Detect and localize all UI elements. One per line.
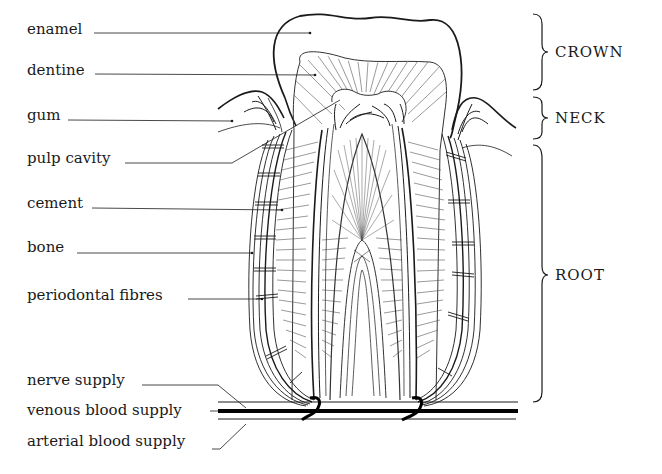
region-neck: NECK (555, 111, 606, 126)
neck-brace (533, 97, 548, 139)
crown-brace (533, 14, 548, 90)
label-cement: cement (27, 196, 83, 211)
tooth-diagram: enamel dentine gum pulp cavity cement bo… (0, 0, 662, 474)
label-bone: bone (27, 240, 64, 255)
label-pulp-cavity: pulp cavity (27, 151, 111, 166)
label-nerve-supply: nerve supply (27, 373, 125, 388)
label-dentine: dentine (27, 63, 85, 78)
region-root: ROOT (555, 268, 605, 283)
region-crown: CROWN (555, 45, 624, 60)
label-enamel: enamel (27, 22, 82, 37)
label-venous-blood-supply: venous blood supply (27, 403, 182, 418)
root-brace (533, 145, 548, 402)
label-periodontal-fibres: periodontal fibres (27, 288, 163, 303)
label-gum: gum (27, 108, 61, 123)
label-arterial-blood-supply: arterial blood supply (27, 434, 185, 449)
